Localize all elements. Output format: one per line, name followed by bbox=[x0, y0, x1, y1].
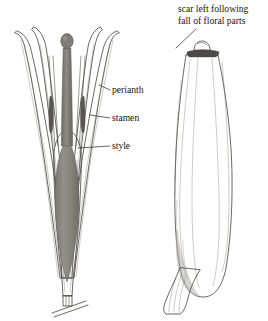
style bbox=[61, 48, 72, 146]
scar-callout-line2: fall of floral parts bbox=[178, 15, 246, 26]
pedicel bbox=[52, 296, 88, 317]
stigma bbox=[61, 34, 73, 49]
label-stamen-leader bbox=[90, 115, 110, 118]
floral-scar bbox=[187, 41, 219, 57]
label-style-leader bbox=[78, 146, 110, 148]
scar-callout-leader bbox=[176, 29, 196, 48]
flower-longitudinal-section bbox=[15, 27, 119, 317]
mature-fruit bbox=[164, 41, 232, 314]
anther-left bbox=[49, 96, 53, 133]
anther-right bbox=[81, 96, 85, 133]
botanical-figure: scar left following fall of floral parts… bbox=[0, 0, 268, 321]
scar-callout-line1: scar left following bbox=[178, 3, 249, 14]
label-style: style bbox=[112, 140, 130, 151]
label-stamen: stamen bbox=[112, 112, 139, 123]
label-perianth: perianth bbox=[112, 84, 144, 95]
figure-canvas: scar left following fall of floral parts… bbox=[0, 0, 268, 321]
scar-callout: scar left following fall of floral parts bbox=[176, 3, 249, 48]
